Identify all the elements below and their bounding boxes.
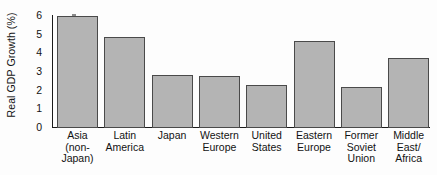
x-axis-label-line: Middle: [382, 130, 436, 142]
bar-slot: [246, 10, 287, 128]
bar: [57, 16, 98, 128]
bar: [341, 87, 382, 128]
x-axis-label-line: States: [240, 142, 294, 154]
x-axis-category-label: LatinAmerica: [98, 130, 152, 153]
x-axis-label-line: Africa: [382, 153, 436, 165]
x-axis-category-label: UnitedStates: [240, 130, 294, 153]
bar: [199, 76, 240, 128]
bar-slot: [294, 10, 335, 128]
bar-slot: [388, 10, 429, 128]
y-axis-title-text: Real GDP Growth (%): [5, 13, 17, 118]
bar: [388, 58, 429, 128]
x-axis-labels: Asia(non-Japan)LatinAmericaJapanWesternE…: [52, 130, 432, 175]
x-axis-label-line: Western: [192, 130, 246, 142]
x-axis-label-line: Europe: [287, 142, 341, 154]
x-axis-label-line: United: [240, 130, 294, 142]
x-axis-category-label: EasternEurope: [287, 130, 341, 153]
x-axis-label-line: Eastern: [287, 130, 341, 142]
bar: [294, 41, 335, 128]
x-axis-label-line: Asia: [51, 130, 105, 142]
plot-area: [52, 9, 432, 128]
y-axis-tick-label: 4: [36, 46, 42, 58]
x-axis-category-label: WesternEurope: [192, 130, 246, 153]
y-axis-tick-label: 0: [36, 121, 42, 133]
x-axis-label-line: Japan: [145, 130, 199, 142]
bar-slot: [152, 10, 193, 128]
x-axis-category-label: FormerSovietUnion: [334, 130, 388, 165]
x-axis-label-line: America: [98, 142, 152, 154]
x-axis-label-line: Japan): [51, 153, 105, 165]
x-axis-category-label: MiddleEast/Africa: [382, 130, 436, 165]
bar-slot: [104, 10, 145, 128]
bar: [152, 75, 193, 128]
bar: [104, 37, 145, 128]
y-axis-tick-label: 2: [36, 84, 42, 96]
y-axis-tick-label: 5: [36, 28, 42, 40]
x-axis-category-label: Asia(non-Japan): [51, 130, 105, 165]
x-axis-label-line: Latin: [98, 130, 152, 142]
bar-slot: [57, 10, 98, 128]
y-axis: 6543210: [24, 9, 50, 134]
bar-chart: Real GDP Growth (%) 6543210 Asia(non-Jap…: [0, 0, 437, 175]
x-axis-label-line: Former: [334, 130, 388, 142]
x-axis-label-line: Europe: [192, 142, 246, 154]
y-axis-title: Real GDP Growth (%): [0, 0, 22, 130]
bar-slot: [341, 10, 382, 128]
x-axis-label-line: Union: [334, 153, 388, 165]
bar: [246, 85, 287, 128]
y-axis-tick-label: 1: [36, 102, 42, 114]
y-axis-tick-label: 3: [36, 65, 42, 77]
bar-slot: [199, 10, 240, 128]
y-axis-tick-label: 6: [36, 9, 42, 21]
x-axis-category-label: Japan: [145, 130, 199, 142]
